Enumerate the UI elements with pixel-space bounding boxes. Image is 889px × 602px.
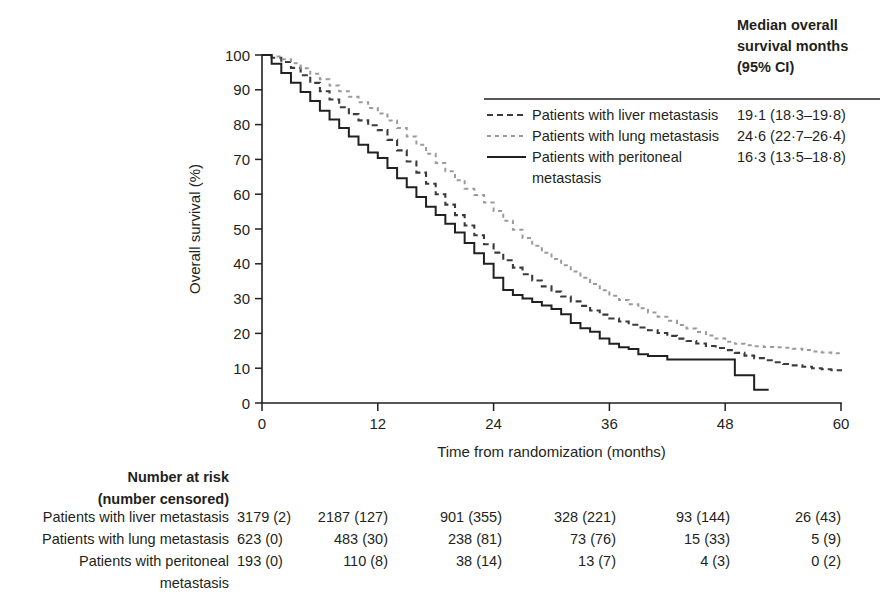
legend-median-value: 24·6 (22·7–26·4) <box>737 128 846 144</box>
legend-median-value: 19·1 (18·3–19·8) <box>737 107 846 123</box>
survival-curves <box>262 55 841 390</box>
risk-cell: 26 (43) <box>795 509 841 525</box>
risk-cell: 13 (7) <box>578 553 616 569</box>
risk-cell: 5 (9) <box>811 531 841 547</box>
risk-row-label: Patients with lung metastasis <box>42 531 229 547</box>
risk-cell: 3179 (2) <box>237 509 291 525</box>
kaplan-meier-chart: 010203040506070809010001224364860Time fr… <box>0 0 889 602</box>
x-tick-label: 0 <box>258 415 266 432</box>
risk-cell: 328 (221) <box>554 509 616 525</box>
risk-cell: 623 (0) <box>237 531 283 547</box>
risk-cell: 2187 (127) <box>318 509 388 525</box>
risk-table-title-line: (number censored) <box>98 491 229 507</box>
y-tick-label: 40 <box>233 255 250 272</box>
y-tick-label: 90 <box>233 81 250 98</box>
survival-curve-0 <box>262 55 841 371</box>
risk-cell: 193 (0) <box>237 553 283 569</box>
y-tick-label: 20 <box>233 325 250 342</box>
y-tick-label: 70 <box>233 151 250 168</box>
risk-cell: 483 (30) <box>334 531 388 547</box>
number-at-risk-table: Number at risk(number censored)Patients … <box>42 469 841 591</box>
legend-median-value: 16·3 (13·5–18·8) <box>737 149 846 165</box>
y-tick-label: 60 <box>233 186 250 203</box>
x-tick-label: 48 <box>717 415 734 432</box>
legend-label: Patients with liver metastasis <box>532 107 718 123</box>
y-axis-title: Overall survival (%) <box>186 164 203 294</box>
x-tick-label: 60 <box>833 415 850 432</box>
risk-row-label: Patients with liver metastasis <box>43 509 229 525</box>
x-tick-label: 12 <box>369 415 386 432</box>
risk-cell: 110 (8) <box>343 553 388 569</box>
legend-label: Patients with peritoneal <box>532 149 682 165</box>
legend-label: Patients with lung metastasis <box>532 128 719 144</box>
risk-cell: 0 (2) <box>811 553 841 569</box>
survival-curve-2 <box>262 55 769 390</box>
risk-cell: 15 (33) <box>684 531 730 547</box>
x-tick-label: 24 <box>485 415 502 432</box>
figure-panel: 010203040506070809010001224364860Time fr… <box>0 0 889 602</box>
legend-label: metastasis <box>532 170 601 186</box>
x-tick-label: 36 <box>601 415 618 432</box>
risk-cell: 238 (81) <box>448 531 502 547</box>
risk-row-label: Patients with peritoneal <box>79 553 229 569</box>
y-tick-label: 0 <box>242 395 250 412</box>
legend-header-line: Median overall <box>737 17 838 33</box>
risk-cell: 4 (3) <box>700 553 730 569</box>
risk-table-title-line: Number at risk <box>127 469 229 485</box>
y-tick-label: 10 <box>233 360 250 377</box>
y-tick-label: 100 <box>225 47 250 64</box>
risk-row-label: metastasis <box>160 575 229 591</box>
risk-cell: 38 (14) <box>456 553 502 569</box>
y-tick-label: 50 <box>233 221 250 238</box>
chart-legend: Median overallsurvival months(95% CI)Pat… <box>484 17 880 186</box>
legend-header-line: survival months <box>737 38 848 54</box>
risk-cell: 73 (76) <box>570 531 616 547</box>
y-tick-label: 30 <box>233 290 250 307</box>
risk-cell: 93 (144) <box>676 509 730 525</box>
risk-cell: 901 (355) <box>440 509 502 525</box>
y-tick-label: 80 <box>233 116 250 133</box>
x-axis-title: Time from randomization (months) <box>437 443 666 460</box>
legend-header-line: (95% CI) <box>737 59 794 75</box>
